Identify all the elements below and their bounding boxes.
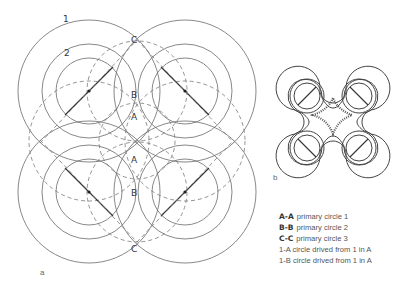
legend: A-Aprimary circle 1 B-Bprimary circle 2 …	[279, 211, 372, 266]
label-C-bottom: C	[131, 244, 137, 254]
label-A-top: A	[131, 112, 138, 122]
legend-text: primary circle 1	[297, 212, 348, 221]
legend-item: A-Aprimary circle 1	[279, 211, 372, 222]
legend-text: primary circle 2	[297, 223, 348, 232]
figure-b	[276, 66, 390, 178]
figure-a-label: a	[40, 268, 44, 277]
legend-text: primary circle 3	[296, 234, 347, 243]
legend-item: B-Bprimary circle 2	[279, 222, 372, 233]
legend-item: 1-A circle drived from 1 in A	[279, 244, 372, 255]
label-B-top: B	[131, 90, 137, 100]
legend-text: 1-B circle drived from 1 in A	[279, 256, 372, 265]
figure-a	[18, 20, 256, 263]
legend-text: 1-A circle drived from 1 in A	[279, 245, 371, 254]
legend-key: A-A	[279, 212, 294, 221]
label-circle-2: 2	[64, 48, 70, 58]
figure-b-label: b	[273, 173, 277, 182]
legend-item: C-Cprimary circle 3	[279, 233, 372, 244]
legend-key: C-C	[279, 234, 293, 243]
label-B-bottom: B	[131, 188, 137, 198]
label-circle-1: 1	[63, 14, 69, 24]
legend-key: B-B	[279, 223, 294, 232]
legend-item: 1-B circle drived from 1 in A	[279, 255, 372, 266]
label-C-top: C	[131, 35, 137, 45]
label-A-bottom: A	[131, 155, 138, 165]
